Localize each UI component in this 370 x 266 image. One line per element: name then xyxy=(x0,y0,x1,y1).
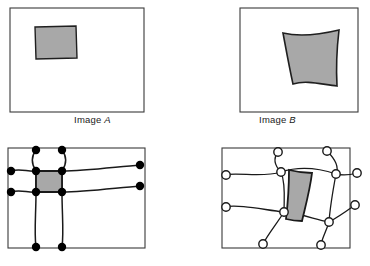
node-top-1[interactable] xyxy=(32,146,40,154)
node-bottom-1[interactable] xyxy=(259,240,267,248)
image-a-mesh-panel xyxy=(7,146,145,251)
node-cell-bl[interactable] xyxy=(32,188,40,196)
node-cell-tl[interactable] xyxy=(277,168,285,176)
source-mesh-cell xyxy=(36,171,62,192)
node-right-1[interactable] xyxy=(136,161,144,169)
node-bottom-2[interactable] xyxy=(58,243,66,251)
node-top-2[interactable] xyxy=(58,146,66,154)
node-bottom-2[interactable] xyxy=(317,241,325,249)
node-cell-tr[interactable] xyxy=(332,170,340,178)
mesh-b-frame xyxy=(222,148,350,248)
node-right-2[interactable] xyxy=(136,182,144,190)
image-b-panel xyxy=(240,8,358,112)
node-cell-bl[interactable] xyxy=(280,208,288,216)
node-left-2[interactable] xyxy=(222,203,230,211)
image-a-frame xyxy=(10,8,144,112)
warped-region-quad xyxy=(283,30,339,86)
source-region-quad xyxy=(35,26,77,59)
image-a-caption-label: A xyxy=(104,114,111,125)
mesh-a-frame xyxy=(8,148,145,248)
node-left-1[interactable] xyxy=(7,167,15,175)
image-a-caption-prefix: Image xyxy=(74,114,104,125)
node-left-1[interactable] xyxy=(222,171,230,179)
image-b-mesh-panel xyxy=(222,147,361,249)
node-right-1[interactable] xyxy=(353,169,361,177)
node-left-2[interactable] xyxy=(7,188,15,196)
image-b-caption: Image B xyxy=(185,114,370,125)
node-top-2[interactable] xyxy=(323,147,331,155)
image-b-caption-label: B xyxy=(289,114,296,125)
node-bottom-1[interactable] xyxy=(32,243,40,251)
registration-figure xyxy=(0,0,370,266)
node-top-1[interactable] xyxy=(274,148,282,156)
image-a-panel xyxy=(10,8,144,112)
image-b-caption-prefix: Image xyxy=(259,114,289,125)
image-a-caption: Image A xyxy=(0,114,185,125)
node-cell-br[interactable] xyxy=(58,188,66,196)
node-cell-br[interactable] xyxy=(325,218,333,226)
node-right-2[interactable] xyxy=(351,201,359,209)
node-cell-tr[interactable] xyxy=(58,167,66,175)
node-cell-tl[interactable] xyxy=(32,167,40,175)
